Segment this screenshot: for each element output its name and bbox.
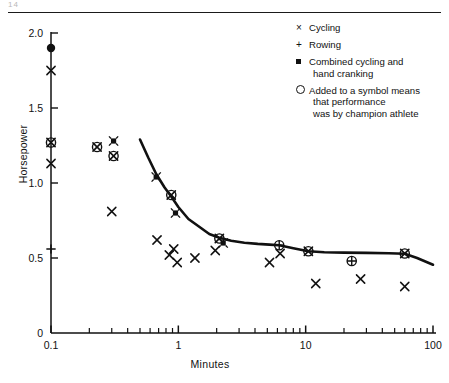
x-tick-label: 0.1 — [44, 339, 59, 351]
y-tick-label: 1.5 — [28, 102, 43, 114]
chart-legend: × Cycling + Rowing Combined cycling and … — [296, 22, 446, 125]
series-1 — [47, 245, 55, 253]
square-star-ray — [152, 180, 154, 182]
legend-label-combined-line2: hand cranking — [309, 68, 446, 80]
legend-label-champion-line3: was by champion athlete — [309, 108, 446, 120]
square-star-ray — [116, 136, 118, 138]
legend-item-combined: Combined cycling and hand cranking — [296, 56, 446, 79]
square-star-ray — [159, 172, 161, 174]
filled-square-marker — [173, 210, 178, 215]
x-tick-label: 10 — [300, 339, 312, 351]
page-root: 14 00.51.01.52.00.1110100 Horsepower Min… — [0, 0, 449, 383]
square-star-ray — [226, 246, 228, 248]
legend-item-champion: Added to a symbol means that performance… — [296, 85, 446, 120]
legend-label-champion-line2: that performance — [309, 96, 446, 108]
legend-item-cycling: × Cycling — [296, 22, 446, 34]
y-tick-label: 2.0 — [28, 27, 43, 39]
legend-label-rowing: Rowing — [309, 39, 446, 51]
x-axis-title: Minutes — [150, 358, 270, 370]
plus-marker-icon: + — [296, 39, 309, 51]
square-star-ray — [109, 136, 111, 138]
square-star-ray — [171, 208, 173, 210]
y-axis-title: Horsepower — [17, 109, 29, 199]
fitted-curve — [140, 140, 433, 265]
legend-label-combined: Combined cycling and hand cranking — [309, 56, 446, 79]
filled-square-marker — [154, 174, 159, 179]
open-circle-marker-icon — [296, 85, 309, 97]
square-star-ray — [171, 216, 173, 218]
legend-label-combined-line1: Combined cycling and — [309, 56, 403, 67]
filled-square-marker — [111, 138, 116, 143]
legend-label-champion-line1: Added to a symbol means — [309, 85, 420, 96]
legend-label-cycling: Cycling — [309, 22, 446, 34]
y-tick-label: 0.5 — [28, 252, 43, 264]
legend-item-rowing: + Rowing — [296, 39, 446, 51]
series-5 — [47, 44, 55, 52]
x-marker-icon: × — [296, 22, 309, 34]
square-star-ray — [116, 144, 118, 146]
filled-circle-marker — [47, 44, 55, 52]
square-star-ray — [178, 216, 180, 218]
y-tick-label: 1.0 — [28, 177, 43, 189]
filled-square-marker-icon — [296, 56, 309, 68]
legend-label-champion: Added to a symbol means that performance… — [309, 85, 446, 120]
y-tick-label: 0 — [37, 327, 43, 339]
square-star-ray — [152, 172, 154, 174]
x-tick-label: 1 — [175, 339, 181, 351]
square-star-ray — [109, 144, 111, 146]
x-tick-label: 100 — [424, 339, 442, 351]
